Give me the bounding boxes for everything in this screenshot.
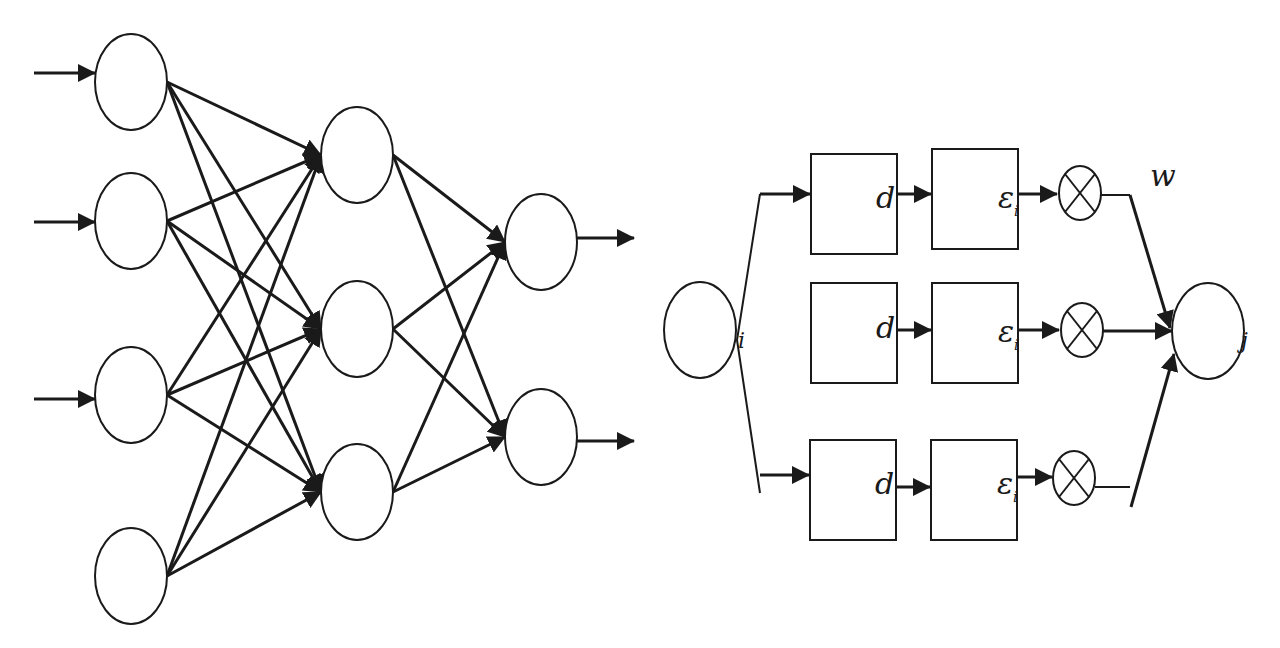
- edge-hidden2-to-output2: [393, 329, 505, 437]
- input-node-2: [95, 173, 167, 269]
- hidden-node-1: [321, 107, 393, 203]
- delay-label-3: d: [875, 466, 894, 501]
- edge-hidden2-to-output1: [393, 242, 505, 329]
- nn-nodes: [95, 34, 577, 624]
- branch-3-to-target-arrow: [1131, 354, 1174, 507]
- epsilon-subscript-2: i: [1014, 337, 1018, 353]
- neural-network: [34, 34, 634, 624]
- multiply-icon: [1053, 451, 1095, 505]
- source-node-i: [664, 282, 736, 378]
- branch-row-2: d εi: [811, 283, 1172, 383]
- target-node-j: [1172, 283, 1244, 379]
- input-node-4: [95, 528, 167, 624]
- multiply-icon: [1061, 303, 1103, 357]
- epsilon-subscript-3: i: [1013, 489, 1017, 505]
- weight-label-w: w: [1150, 158, 1176, 193]
- input-node-1: [95, 34, 167, 130]
- output-node-1: [505, 194, 577, 290]
- delay-label-2: d: [876, 310, 895, 345]
- weight-path-diagram: i d εi d εi: [664, 149, 1248, 540]
- hidden-node-2: [321, 281, 393, 377]
- edge-hidden3-to-output1: [393, 242, 505, 492]
- edge-input4-to-hidden3: [167, 492, 321, 576]
- edge-input3-to-hidden3: [167, 395, 321, 492]
- delay-label-1: d: [876, 180, 895, 215]
- edge-hidden3-to-output2: [393, 437, 505, 492]
- output-node-2: [505, 389, 577, 485]
- multiply-icon: [1059, 166, 1101, 220]
- hidden-node-3: [321, 444, 393, 540]
- epsilon-subscript-1: i: [1014, 203, 1018, 219]
- branch-1-to-target-arrow: [1130, 195, 1170, 328]
- diagram-canvas: i d εi d εi: [0, 0, 1280, 648]
- edge-input2-to-hidden1: [167, 155, 321, 221]
- input-node-3: [95, 347, 167, 443]
